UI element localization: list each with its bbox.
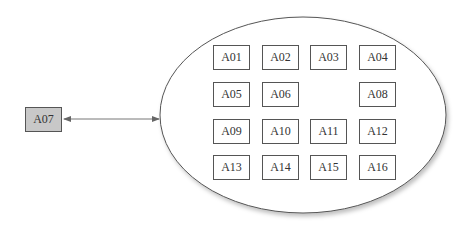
node-a01: A01 xyxy=(213,45,250,70)
node-a12: A12 xyxy=(359,119,396,144)
node-a07: A07 xyxy=(25,107,62,132)
node-a08: A08 xyxy=(359,82,396,107)
node-a15: A15 xyxy=(310,155,347,180)
container-ellipse xyxy=(160,17,446,213)
node-a13: A13 xyxy=(213,155,250,180)
node-a14: A14 xyxy=(262,155,299,180)
node-a04: A04 xyxy=(359,45,396,70)
node-a11: A11 xyxy=(310,119,347,144)
node-a16: A16 xyxy=(359,155,396,180)
diagram-canvas xyxy=(0,0,472,226)
node-a02: A02 xyxy=(262,45,299,70)
node-a03: A03 xyxy=(310,45,347,70)
node-a06: A06 xyxy=(262,82,299,107)
node-a05: A05 xyxy=(213,82,250,107)
node-a10: A10 xyxy=(262,119,299,144)
node-a09: A09 xyxy=(213,119,250,144)
